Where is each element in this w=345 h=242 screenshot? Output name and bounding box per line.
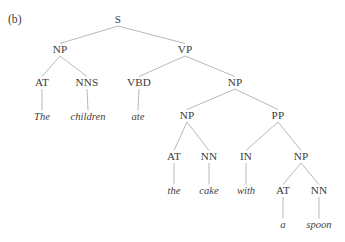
tree-node-s: S — [115, 14, 121, 25]
tree-node-np1: NP — [53, 44, 68, 55]
tree-nodes: SNPVPATNNSVBDNPThechildrenateNPPPATNNINN… — [0, 0, 345, 242]
tree-node-at3: AT — [276, 185, 290, 196]
tree-node-np3: NP — [180, 110, 195, 121]
tree-leaf-w_the2: the — [168, 186, 181, 197]
tree-node-nns: NNS — [76, 77, 99, 88]
tree-leaf-w_a: a — [280, 220, 285, 231]
tree-leaf-w_child: children — [71, 112, 106, 123]
syntax-tree-figure: (b) SNPVPATNNSVBDNPThechildrenateNPPPATN… — [0, 0, 345, 242]
tree-leaf-w_the1: The — [34, 112, 50, 123]
tree-leaf-w_ate: ate — [132, 112, 145, 123]
tree-node-at1: AT — [35, 77, 49, 88]
tree-node-np2: NP — [228, 77, 243, 88]
tree-node-vbd: VBD — [127, 77, 151, 88]
tree-leaf-w_with: with — [237, 186, 255, 197]
tree-leaf-w_cake: cake — [199, 186, 218, 197]
tree-node-vp: VP — [178, 44, 193, 55]
tree-node-at2: AT — [167, 151, 181, 162]
tree-node-np4: NP — [294, 151, 309, 162]
tree-node-nn2: NN — [311, 185, 328, 196]
tree-node-in: IN — [240, 151, 252, 162]
tree-node-pp: PP — [272, 110, 285, 121]
tree-leaf-w_spoon: spoon — [306, 220, 331, 231]
tree-node-nn1: NN — [201, 151, 218, 162]
